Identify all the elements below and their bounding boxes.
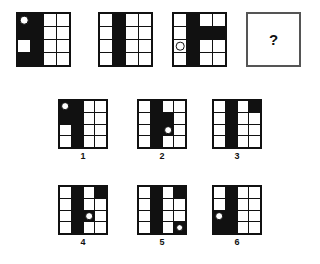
grid-cell-r4c2 [72, 222, 83, 233]
option-3[interactable] [212, 99, 262, 149]
grid-cell-r3c2 [72, 125, 83, 136]
grid-cell-r2c2 [72, 199, 83, 210]
grid-cell-r2c4 [174, 113, 185, 124]
circle-marker [216, 212, 224, 220]
grid-cell-r4c4 [174, 222, 185, 233]
grid-cell-r3c1 [139, 125, 150, 136]
grid-cell-r1c2 [226, 187, 237, 198]
grid-cell-r1c1 [18, 14, 30, 26]
grid-cell-r1c1 [60, 187, 71, 198]
grid-cell-r4c4 [249, 222, 260, 233]
matrix-cell-2 [98, 12, 153, 67]
grid-cell-r2c3 [200, 27, 212, 39]
grid-cell-r4c1 [139, 222, 150, 233]
grid-cell-r3c4 [174, 125, 185, 136]
grid-cell-r4c1 [174, 53, 186, 65]
grid-cell-r2c2 [31, 27, 43, 39]
grid-cell-r3c1 [60, 125, 71, 136]
grid-cell-r3c2 [151, 125, 162, 136]
grid-cell-r2c4 [95, 199, 106, 210]
matrix-cell-1 [16, 12, 71, 67]
grid-cell-r4c2 [226, 136, 237, 147]
grid-cell-r3c1 [214, 211, 225, 222]
grid-cell-r3c3 [200, 40, 212, 52]
grid-cell-r4c3 [84, 222, 95, 233]
grid-cell-r4c2 [151, 222, 162, 233]
grid-cell-r4c4 [95, 222, 106, 233]
grid-cell-r2c1 [60, 199, 71, 210]
grid-cell-r1c4 [95, 101, 106, 112]
grid-cell-r1c4 [174, 187, 185, 198]
grid-cell-r2c4 [249, 199, 260, 210]
grid-cell-r1c3 [163, 101, 174, 112]
grid-cell-r1c2 [31, 14, 43, 26]
grid-cell-r1c4 [139, 14, 151, 26]
grid-cell-r1c3 [238, 101, 249, 112]
grid-cell-r3c2 [113, 40, 125, 52]
grid-cell-r1c2 [113, 14, 125, 26]
grid-cell-r1c1 [214, 101, 225, 112]
grid-cell-r2c3 [163, 199, 174, 210]
option-4[interactable] [58, 185, 108, 235]
grid-cell-r4c3 [163, 222, 174, 233]
grid-cell-r4c2 [31, 53, 43, 65]
grid-cell-r3c4 [249, 125, 260, 136]
matrix-cell-3-grid [172, 12, 227, 67]
grid-cell-r1c3 [238, 187, 249, 198]
grid-cell-r1c4 [57, 14, 69, 26]
grid-cell-r4c4 [139, 53, 151, 65]
grid-cell-r4c3 [238, 136, 249, 147]
grid-cell-r1c2 [226, 101, 237, 112]
grid-cell-r4c1 [60, 222, 71, 233]
grid-cell-r2c3 [126, 27, 138, 39]
grid-cell-r3c4 [95, 125, 106, 136]
grid-cell-r3c2 [226, 211, 237, 222]
grid-cell-r1c4 [213, 14, 225, 26]
grid-cell-r2c1 [214, 199, 225, 210]
grid-cell-r4c4 [174, 136, 185, 147]
option-2[interactable] [137, 99, 187, 149]
option-5-grid [137, 185, 187, 235]
grid-cell-r2c2 [151, 113, 162, 124]
grid-cell-r1c2 [187, 14, 199, 26]
grid-cell-r1c4 [95, 187, 106, 198]
circle-marker [176, 42, 185, 51]
grid-cell-r3c3 [163, 211, 174, 222]
grid-cell-r1c4 [174, 101, 185, 112]
option-1[interactable] [58, 99, 108, 149]
grid-cell-r3c3 [238, 125, 249, 136]
option-2-grid [137, 99, 187, 149]
option-5[interactable] [137, 185, 187, 235]
grid-cell-r2c4 [249, 113, 260, 124]
grid-cell-r3c1 [214, 125, 225, 136]
grid-cell-r4c4 [95, 136, 106, 147]
grid-cell-r3c4 [174, 211, 185, 222]
grid-cell-r1c2 [72, 101, 83, 112]
grid-cell-r1c3 [84, 187, 95, 198]
grid-cell-r4c1 [139, 136, 150, 147]
grid-cell-r2c1 [139, 199, 150, 210]
option-5-label: 5 [152, 238, 172, 247]
grid-cell-r2c2 [187, 27, 199, 39]
grid-cell-r2c2 [113, 27, 125, 39]
grid-cell-r4c4 [57, 53, 69, 65]
option-4-grid [58, 185, 108, 235]
question-panel: ? [246, 12, 301, 67]
matrix-cell-1-grid [16, 12, 71, 67]
grid-cell-r4c3 [84, 136, 95, 147]
circle-marker [20, 16, 29, 25]
grid-cell-r4c3 [126, 53, 138, 65]
grid-cell-r2c4 [57, 27, 69, 39]
grid-cell-r2c4 [139, 27, 151, 39]
grid-cell-r2c1 [214, 113, 225, 124]
grid-cell-r1c1 [139, 101, 150, 112]
grid-cell-r1c4 [249, 101, 260, 112]
grid-cell-r3c2 [226, 125, 237, 136]
grid-cell-r2c1 [100, 27, 112, 39]
option-6[interactable] [212, 185, 262, 235]
grid-cell-r3c1 [174, 40, 186, 52]
grid-cell-r1c4 [249, 187, 260, 198]
grid-cell-r3c2 [187, 40, 199, 52]
grid-cell-r4c2 [151, 136, 162, 147]
option-4-label: 4 [73, 238, 93, 247]
